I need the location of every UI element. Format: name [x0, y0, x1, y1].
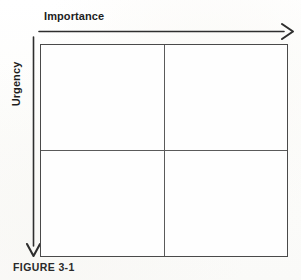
quadrant-bottom-right[interactable] — [165, 151, 288, 257]
figure-caption: FIGURE 3-1 — [13, 261, 75, 273]
matrix-grid — [40, 44, 288, 257]
arrow-right-icon — [38, 22, 296, 42]
matrix-horizontal-divider — [41, 150, 287, 151]
quadrant-bottom-left[interactable] — [41, 151, 164, 257]
figure-3-1: Importance Urgency FIGURE 3-1 — [0, 0, 301, 280]
quadrant-top-right[interactable] — [165, 45, 288, 150]
quadrant-top-left[interactable] — [41, 45, 164, 150]
axis-label-importance: Importance — [44, 10, 104, 22]
axis-label-urgency: Urgency — [10, 54, 22, 114]
